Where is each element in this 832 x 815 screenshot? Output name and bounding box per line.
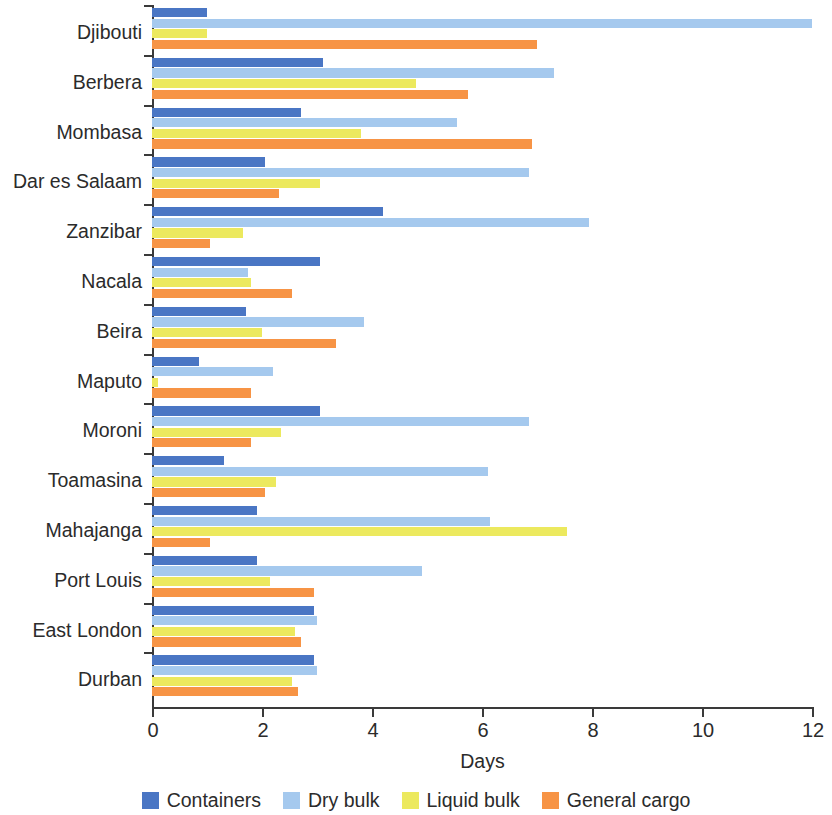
bar-row <box>152 268 812 277</box>
bar-group <box>152 157 812 207</box>
bar-dry-bulk[interactable] <box>152 118 457 127</box>
y-axis-label: East London <box>2 621 142 641</box>
bar-row <box>152 577 812 586</box>
bar-general-cargo[interactable] <box>152 90 468 99</box>
bar-containers[interactable] <box>152 406 320 415</box>
bar-group <box>152 506 812 556</box>
bar-general-cargo[interactable] <box>152 239 210 248</box>
y-axis-label: Mahajanga <box>2 521 142 541</box>
bar-group <box>152 307 812 357</box>
y-axis-labels: DjiboutiBerberaMombasaDar es SalaamZanzi… <box>0 0 142 715</box>
bar-group <box>152 357 812 407</box>
bar-row <box>152 118 812 127</box>
bar-dry-bulk[interactable] <box>152 317 364 326</box>
x-axis-tick-label: 12 <box>783 719 832 742</box>
bar-liquid-bulk[interactable] <box>152 79 416 88</box>
bar-general-cargo[interactable] <box>152 139 532 148</box>
bar-liquid-bulk[interactable] <box>152 129 361 138</box>
legend-item[interactable]: Dry bulk <box>283 789 380 812</box>
legend-item[interactable]: Liquid bulk <box>402 789 520 812</box>
bar-row <box>152 456 812 465</box>
bar-dry-bulk[interactable] <box>152 566 422 575</box>
bar-liquid-bulk[interactable] <box>152 677 292 686</box>
bar-dry-bulk[interactable] <box>152 218 589 227</box>
bar-containers[interactable] <box>152 257 320 266</box>
bar-liquid-bulk[interactable] <box>152 328 262 337</box>
legend-label: Liquid bulk <box>427 789 520 812</box>
bar-liquid-bulk[interactable] <box>152 527 567 536</box>
bar-row <box>152 218 812 227</box>
bar-row <box>152 317 812 326</box>
bar-liquid-bulk[interactable] <box>152 378 158 387</box>
bar-general-cargo[interactable] <box>152 339 336 348</box>
bar-row <box>152 687 812 696</box>
plot-area <box>152 8 812 706</box>
bar-containers[interactable] <box>152 108 301 117</box>
bar-general-cargo[interactable] <box>152 438 251 447</box>
bar-general-cargo[interactable] <box>152 687 298 696</box>
bar-dry-bulk[interactable] <box>152 517 490 526</box>
x-axis-title: Days <box>152 750 813 773</box>
bar-row <box>152 367 812 376</box>
bar-containers[interactable] <box>152 506 257 515</box>
bar-dry-bulk[interactable] <box>152 168 529 177</box>
bar-liquid-bulk[interactable] <box>152 477 276 486</box>
bar-containers[interactable] <box>152 655 314 664</box>
bar-dry-bulk[interactable] <box>152 268 248 277</box>
x-axis-tick-label: 8 <box>563 719 623 742</box>
bar-containers[interactable] <box>152 8 207 17</box>
legend-item[interactable]: Containers <box>142 789 261 812</box>
bar-liquid-bulk[interactable] <box>152 29 207 38</box>
bar-group <box>152 655 812 705</box>
bar-containers[interactable] <box>152 157 265 166</box>
bar-general-cargo[interactable] <box>152 40 537 49</box>
bar-row <box>152 417 812 426</box>
bar-dry-bulk[interactable] <box>152 467 488 476</box>
legend-swatch-icon <box>542 792 559 809</box>
x-axis-tick <box>262 707 264 717</box>
bar-dry-bulk[interactable] <box>152 417 529 426</box>
bar-containers[interactable] <box>152 357 199 366</box>
bar-row <box>152 40 812 49</box>
bar-general-cargo[interactable] <box>152 388 251 397</box>
bar-liquid-bulk[interactable] <box>152 179 320 188</box>
x-axis-tick-label: 4 <box>343 719 403 742</box>
legend-item[interactable]: General cargo <box>542 789 691 812</box>
bar-containers[interactable] <box>152 58 323 67</box>
bar-dry-bulk[interactable] <box>152 616 317 625</box>
bar-row <box>152 566 812 575</box>
bar-containers[interactable] <box>152 456 224 465</box>
y-axis-label: Moroni <box>2 421 142 441</box>
bar-row <box>152 139 812 148</box>
x-axis-tick <box>152 707 154 717</box>
bar-general-cargo[interactable] <box>152 637 301 646</box>
bar-general-cargo[interactable] <box>152 538 210 547</box>
bar-group <box>152 456 812 506</box>
bar-row <box>152 68 812 77</box>
bar-general-cargo[interactable] <box>152 289 292 298</box>
bar-general-cargo[interactable] <box>152 588 314 597</box>
bar-general-cargo[interactable] <box>152 488 265 497</box>
legend-label: Dry bulk <box>308 789 380 812</box>
bar-containers[interactable] <box>152 606 314 615</box>
bar-containers[interactable] <box>152 207 383 216</box>
bar-row <box>152 588 812 597</box>
x-axis-tick <box>812 707 814 717</box>
bar-dry-bulk[interactable] <box>152 19 812 28</box>
bar-general-cargo[interactable] <box>152 189 279 198</box>
bar-liquid-bulk[interactable] <box>152 278 251 287</box>
bar-dry-bulk[interactable] <box>152 666 317 675</box>
bar-liquid-bulk[interactable] <box>152 577 270 586</box>
bar-containers[interactable] <box>152 556 257 565</box>
bar-dry-bulk[interactable] <box>152 68 554 77</box>
bar-liquid-bulk[interactable] <box>152 428 281 437</box>
bar-group <box>152 58 812 108</box>
bar-row <box>152 157 812 166</box>
bar-liquid-bulk[interactable] <box>152 228 243 237</box>
bar-dry-bulk[interactable] <box>152 367 273 376</box>
x-axis-tick-label: 2 <box>233 719 293 742</box>
x-axis-tick <box>592 707 594 717</box>
bar-liquid-bulk[interactable] <box>152 627 295 636</box>
bar-containers[interactable] <box>152 307 246 316</box>
bar-row <box>152 228 812 237</box>
